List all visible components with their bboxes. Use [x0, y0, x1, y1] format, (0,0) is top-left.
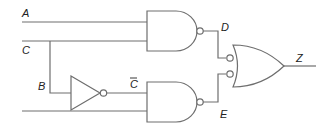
- wire-e: [203, 74, 226, 102]
- nand-top-bubble-icon: [197, 28, 203, 34]
- or-input-bubble-top-icon: [227, 55, 233, 61]
- label-c-bar: C: [130, 78, 138, 90]
- label-a: A: [21, 7, 29, 19]
- label-b: B: [38, 80, 45, 92]
- not-bubble-icon: [100, 90, 106, 96]
- nand-gate-top: [147, 11, 197, 51]
- label-d: D: [221, 21, 229, 33]
- logic-circuit-diagram: A C B C D E Z: [0, 0, 316, 130]
- wire-d: [203, 31, 226, 58]
- wire-b: [50, 41, 71, 93]
- or-gate: [233, 45, 284, 87]
- circuit-svg: A C B C D E Z: [0, 0, 316, 130]
- label-z: Z: [295, 52, 304, 64]
- nand-gate-bottom: [147, 82, 197, 122]
- nand-bottom-bubble-icon: [197, 99, 203, 105]
- label-c: C: [22, 44, 30, 56]
- or-input-bubble-bottom-icon: [227, 71, 233, 77]
- label-e: E: [220, 108, 228, 120]
- not-gate: [71, 76, 100, 110]
